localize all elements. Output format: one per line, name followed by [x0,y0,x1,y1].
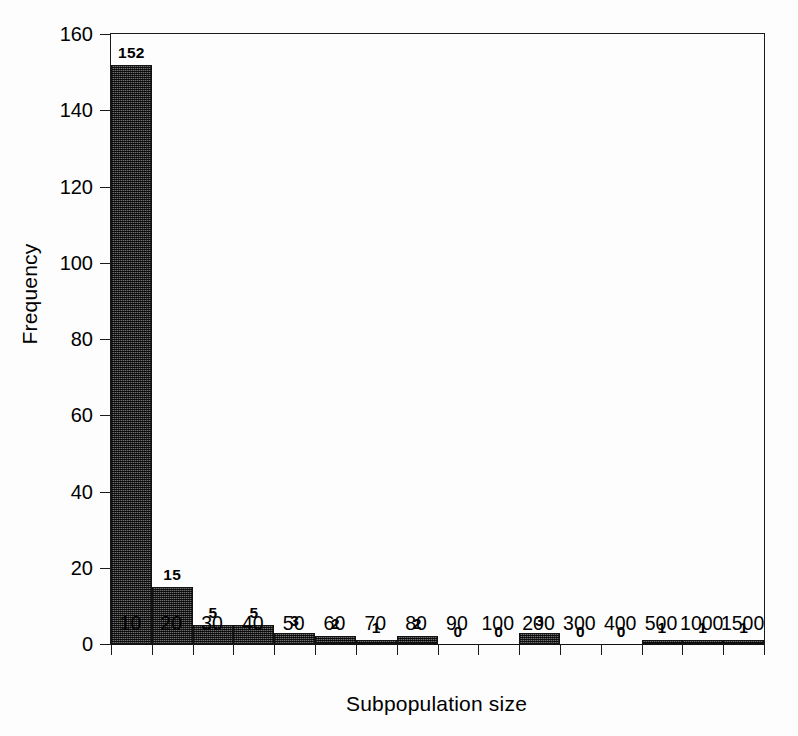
bar-70 [356,640,397,644]
y-tick-label-160: 160 [60,23,93,46]
x-tick-9 [478,644,479,655]
x-tick-4 [274,644,275,655]
x-axis-title: Subpopulation size [110,692,763,716]
x-tick-16 [764,644,765,655]
bar-80 [397,636,438,644]
y-axis-title: Frequency [18,204,42,384]
x-tick-label-100: 100 [481,612,514,635]
bar-60 [315,636,356,644]
y-tick-100: 100 [100,263,111,264]
y-tick-label-140: 140 [60,99,93,122]
x-tick-label-1500: 1500 [721,612,764,635]
y-tick-0: 0 [100,644,111,645]
x-tick-label-40: 40 [242,612,264,635]
x-tick-15 [723,644,724,655]
x-tick-label-20: 20 [160,612,182,635]
x-tick-label-70: 70 [364,612,386,635]
x-tick-6 [356,644,357,655]
y-tick-40: 40 [100,492,111,493]
x-tick-8 [438,644,439,655]
x-tick-label-300: 300 [563,612,596,635]
bar-1000 [682,640,723,644]
y-tick-60: 60 [100,415,111,416]
x-tick-label-10: 10 [120,612,142,635]
x-tick-12 [601,644,602,655]
bar-500 [642,640,683,644]
x-tick-label-60: 60 [324,612,346,635]
y-tick-120: 120 [100,187,111,188]
y-tick-label-0: 0 [82,633,93,656]
x-tick-0 [111,644,112,655]
y-tick-140: 140 [100,110,111,111]
x-tick-label-200: 200 [522,612,555,635]
x-tick-label-50: 50 [283,612,305,635]
x-tick-label-400: 400 [604,612,637,635]
plot-area: 020406080100120140160 152155532120030011… [110,33,765,645]
y-tick-label-120: 120 [60,176,93,199]
x-tick-3 [233,644,234,655]
y-tick-label-60: 60 [71,404,93,427]
bar-1500 [723,640,764,644]
y-tick-80: 80 [100,339,111,340]
x-tick-13 [642,644,643,655]
x-tick-label-90: 90 [446,612,468,635]
x-tick-14 [682,644,683,655]
histogram-figure: Frequency Subpopulation size 02040608010… [0,0,798,736]
x-tick-10 [519,644,520,655]
y-tick-label-20: 20 [71,557,93,580]
y-tick-label-100: 100 [60,252,93,275]
y-tick-label-40: 40 [71,481,93,504]
x-tick-label-80: 80 [405,612,427,635]
y-tick-20: 20 [100,568,111,569]
x-tick-1 [152,644,153,655]
bar-value-20: 15 [163,566,181,584]
y-tick-label-80: 80 [71,328,93,351]
x-tick-label-500: 500 [645,612,678,635]
bar-value-10: 152 [118,44,145,62]
x-tick-11 [560,644,561,655]
x-tick-7 [397,644,398,655]
x-tick-5 [315,644,316,655]
x-tick-label-1000: 1000 [680,612,723,635]
y-tick-160: 160 [100,34,111,35]
x-tick-2 [193,644,194,655]
x-tick-label-30: 30 [201,612,223,635]
bar-10 [111,65,152,645]
